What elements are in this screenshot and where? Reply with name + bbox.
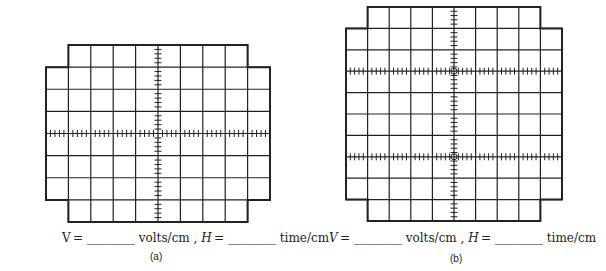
caption-b-h-blank[interactable]: ________ <box>495 231 543 245</box>
caption-b-v-unit: volts/cm , <box>406 231 465 245</box>
caption-b: V = ________ volts/cm , H = ________ tim… <box>329 231 596 245</box>
figure-label-a: (a) <box>150 251 162 262</box>
caption-a-h-prefix: H = <box>201 231 224 245</box>
caption-a-v-blank[interactable]: ________ <box>87 231 135 245</box>
caption-a-h-blank[interactable]: ________ <box>228 231 276 245</box>
caption-b-h-prefix: H = <box>468 231 491 245</box>
graticule-a <box>46 45 270 222</box>
graticule-b <box>346 7 562 221</box>
figure-label-b: (b) <box>450 253 462 264</box>
caption-a-h-unit: time/cm <box>280 231 329 245</box>
caption-a: V = ________ volts/cm , H = ________ tim… <box>62 231 329 245</box>
caption-b-h-unit: time/cm <box>547 231 596 245</box>
caption-a-v-prefix: V = <box>62 231 83 245</box>
caption-b-v-blank[interactable]: ________ <box>354 231 402 245</box>
caption-a-v-unit: volts/cm , <box>139 231 198 245</box>
caption-b-v-prefix: V = <box>329 231 350 245</box>
